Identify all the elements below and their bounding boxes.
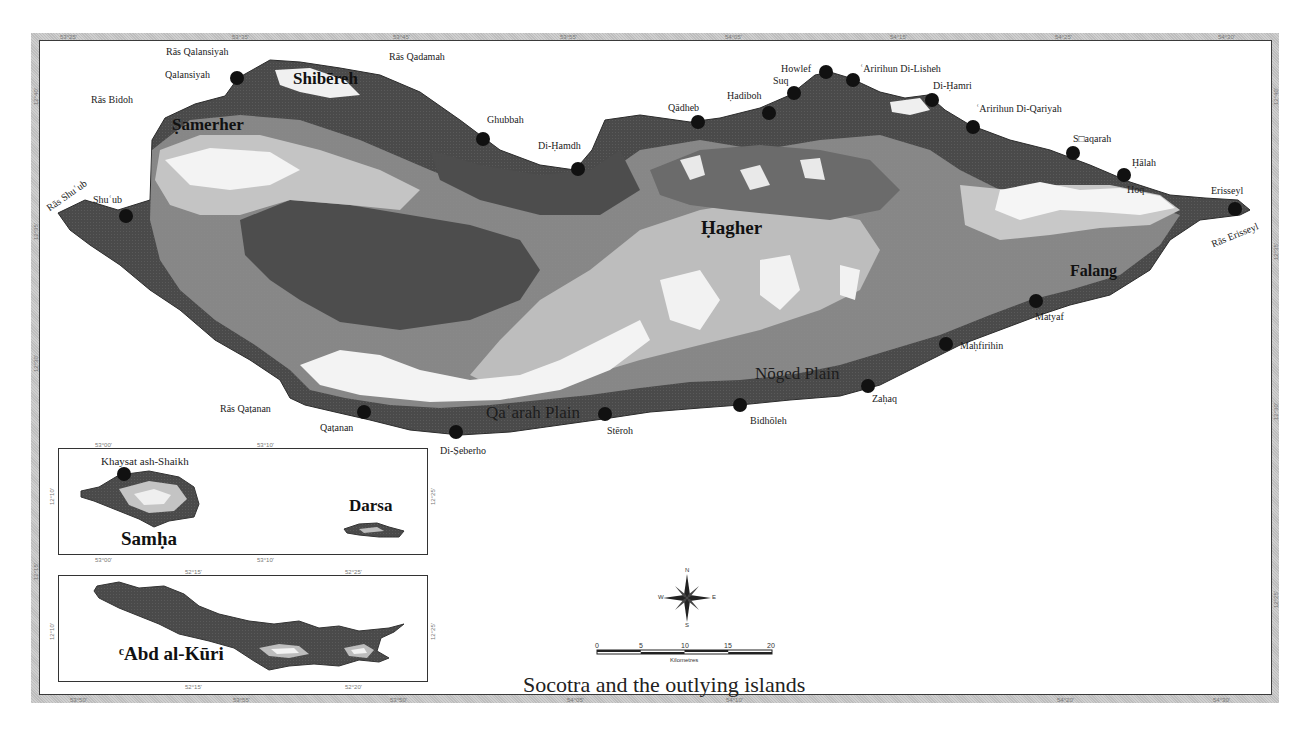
settlement-label: Ghubbah: [487, 115, 524, 125]
scale-tick: 5: [639, 642, 643, 649]
map-title: Socotra and the outlying islands: [523, 672, 805, 698]
scale-tick: 20: [767, 642, 775, 649]
settlement-label: Qaṭanan: [320, 423, 353, 433]
settlement-label: Maḥfirihin: [960, 341, 1003, 351]
compass-north-label: N: [685, 567, 689, 573]
settlement-dot-ghubbah: [476, 132, 490, 146]
settlement-label: Stēroh: [607, 426, 633, 436]
compass-west-label: W: [658, 594, 664, 600]
settlement-label: Howlef: [781, 64, 811, 74]
inset-tick: 52°15': [185, 684, 202, 690]
settlement-label: Qalansiyah: [165, 70, 210, 80]
settlement-dot-howlef: [819, 65, 833, 79]
settlement-dot-saqarah: [1066, 146, 1080, 160]
settlement-dot-suq: [787, 86, 801, 100]
settlement-label: Suq: [773, 76, 789, 86]
settlement-dot-di-hamdh: [571, 162, 585, 176]
settlement-dot-steroh: [598, 407, 612, 421]
scale-tick: 15: [724, 642, 732, 649]
scale-bar: [597, 650, 772, 654]
settlement-label: Ḥadiboh: [727, 91, 761, 101]
compass-south-label: S: [685, 622, 689, 628]
inset-tick: 52°15': [185, 569, 202, 575]
settlement-label: Shuʿub: [93, 195, 122, 205]
settlement-label: Hoq: [1127, 185, 1144, 195]
settlement-label: Khaysat ash-Shaikh: [101, 456, 189, 467]
settlement-dot-aririhun-di-lisheh: [846, 73, 860, 87]
settlement-dot-bidholeh: [733, 398, 747, 412]
inset-tick: 12°25': [430, 488, 436, 505]
inset-tick: 53°10': [257, 557, 274, 563]
settlement-dot-di-hamri: [925, 93, 939, 107]
settlement-dot-erisseyl: [1228, 202, 1242, 216]
island-label: ᶜAbd al-Kūri: [119, 644, 224, 663]
inset-tick: 12°25': [430, 623, 436, 640]
compass-east-label: E: [712, 594, 716, 600]
scale-tick: 10: [681, 642, 689, 649]
settlement-dot-shuub: [119, 209, 133, 223]
region-label: Falang: [1070, 263, 1117, 279]
settlement-dot-qatanan: [357, 405, 371, 419]
inset-tick: 53°10': [257, 442, 274, 448]
settlement-label: Qādheb: [668, 103, 699, 113]
settlement-label: Ḥālah: [1132, 158, 1156, 168]
settlement-dot-zahaq: [861, 379, 875, 393]
plain-label: Qaʿarah Plain: [486, 404, 580, 421]
settlement-label: Matyaf: [1035, 312, 1064, 322]
inset-tick: 52°25': [345, 569, 362, 575]
cape-label: Rās Qalansiyah: [166, 47, 229, 57]
compass-rose-icon: [663, 574, 711, 622]
inset-tick: 53°00': [95, 557, 112, 563]
settlement-label: ʿAririhun Di-Lisheh: [860, 64, 941, 74]
settlement-dot-khaysat: [117, 467, 131, 481]
settlement-label: Di-Ḥamri: [933, 81, 972, 91]
settlement-label: Zaḥaq: [872, 394, 897, 404]
inset-tick: 12°10': [49, 488, 55, 505]
settlement-dot-qalansiyah: [230, 71, 244, 85]
settlement-label: Erisseyl: [1211, 186, 1243, 196]
island-label: Darsa: [349, 497, 392, 514]
inset-tick: 12°10': [49, 623, 55, 640]
settlement-dot-matyaf: [1029, 294, 1043, 308]
region-label: Ḥagher: [701, 218, 762, 237]
cape-label: Rās Qaṭanan: [220, 404, 271, 414]
region-label: Ṣamerher: [172, 116, 244, 133]
island-label: Samḥa: [121, 529, 177, 548]
settlement-label: ʿAririhun Di-Qariyah: [976, 104, 1062, 114]
settlement-label: S□aqarah: [1073, 134, 1111, 144]
inset-abd-al-kuri: ᶜAbd al-Kūri: [58, 575, 428, 682]
settlement-label: Di-Ḥamdh: [538, 141, 581, 151]
scale-unit: Kilometres: [670, 657, 698, 663]
inset-samha-darsa: Khaysat ash-Shaikh Samḥa Darsa: [58, 448, 428, 555]
region-label: Shibēreh: [293, 70, 358, 87]
settlement-dot-halah: [1117, 168, 1131, 182]
cape-label: Rās Qadamah: [389, 52, 445, 62]
settlement-dot-mahfirihin: [939, 337, 953, 351]
scale-tick: 0: [595, 642, 599, 649]
inset-tick: 53°00': [95, 442, 112, 448]
abd-al-kuri-map: [59, 576, 427, 681]
inset-tick: 52°20': [345, 684, 362, 690]
settlement-dot-qadheb: [691, 115, 705, 129]
settlement-dot-hadiboh: [762, 106, 776, 120]
plain-label: Nōged Plain: [755, 365, 840, 382]
settlement-dot-aririhun-di-qariyah: [966, 120, 980, 134]
settlement-label: Di-Ṣeberho: [440, 446, 486, 456]
settlement-label: Bidhōleh: [750, 416, 787, 426]
cape-label: Rās Bidoh: [91, 95, 133, 105]
settlement-dot-di-seberho: [449, 425, 463, 439]
